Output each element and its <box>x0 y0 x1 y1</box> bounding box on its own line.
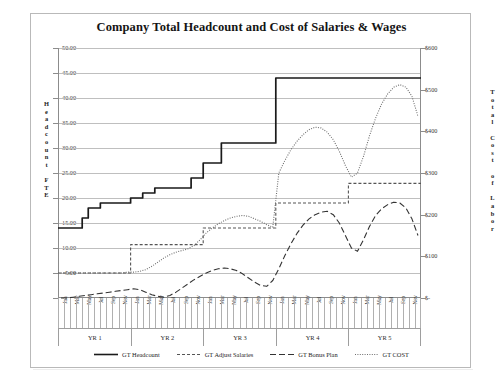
y-axis-right-tickmark <box>421 173 426 174</box>
legend-item-label: GT Headcount <box>122 351 160 358</box>
axis-title-char: n <box>41 153 52 161</box>
line-solid-icon <box>94 352 118 357</box>
series-line-gt-cost <box>61 85 418 273</box>
screenshot-root: Company Total Headcount and Cost of Sala… <box>0 0 501 388</box>
axis-title-char <box>487 164 498 172</box>
axis-title-char: o <box>487 96 498 104</box>
legend-item-label: GT COST <box>383 351 409 358</box>
y-axis-right-tick-label: $600 <box>425 44 465 51</box>
y-axis-right-tickmark <box>421 298 426 299</box>
line-dashed-icon <box>177 352 201 357</box>
legend-item[interactable]: GT Headcount <box>94 351 160 358</box>
axis-title-char: t <box>487 103 498 111</box>
line-longdash-icon <box>270 352 294 357</box>
x-axis-year-label: YR 5 <box>348 328 421 346</box>
axis-title-char: r <box>487 225 498 233</box>
axis-title-char: o <box>487 217 498 225</box>
chart-legend: GT HeadcountGT Adjust SalariesGT Bonus P… <box>31 345 472 363</box>
figure-caption <box>30 372 470 382</box>
x-axis-year-label: YR 2 <box>131 328 204 346</box>
y-axis-right-title: Total Cost of Labor <box>487 88 498 232</box>
x-axis-year-label: YR 1 <box>58 328 131 346</box>
axis-title-char: F <box>41 176 52 184</box>
chart-card: Company Total Headcount and Cost of Sala… <box>30 13 471 368</box>
axis-title-char: s <box>487 149 498 157</box>
series-layer <box>58 48 421 298</box>
axis-title-char: l <box>487 118 498 126</box>
axis-title-char: e <box>41 108 52 116</box>
x-axis-year-band: YR 1YR 2YR 3YR 4YR 5 <box>58 328 421 346</box>
y-axis-right-tickmark <box>421 90 426 91</box>
x-axis-month-cell <box>415 298 421 328</box>
y-axis-right-tickmark <box>421 48 426 49</box>
chart-title: Company Total Headcount and Cost of Sala… <box>31 20 472 35</box>
axis-title-char: c <box>41 130 52 138</box>
x-axis-year-label: YR 3 <box>203 328 276 346</box>
legend-item-label: GT Adjust Salaries <box>205 351 254 358</box>
axis-title-char: H <box>41 100 52 108</box>
y-axis-right-tickmark <box>421 215 426 216</box>
y-axis-right-tick-label: $100 <box>425 252 465 259</box>
axis-title-char <box>487 126 498 134</box>
y-axis-right-tickmark <box>421 256 426 257</box>
line-dotted-icon <box>355 352 379 357</box>
x-axis-year-label: YR 4 <box>276 328 349 346</box>
axis-title-char: t <box>41 161 52 169</box>
axis-title-char: b <box>487 210 498 218</box>
legend-item-label: GT Bonus Plan <box>298 351 337 358</box>
legend-item[interactable]: GT Bonus Plan <box>270 351 337 358</box>
series-line-gt-adjust-salaries <box>58 183 421 273</box>
y-axis-right-tickmark <box>421 131 426 132</box>
axis-title-char: C <box>487 134 498 142</box>
plot-area <box>58 48 421 298</box>
axis-title-char: f <box>487 179 498 187</box>
axis-title-char: T <box>487 88 498 96</box>
legend-item[interactable]: GT COST <box>355 351 409 358</box>
x-axis-month-band: JanMarMayJulSepNovJanMarMayJulSepNovJanM… <box>58 298 421 328</box>
series-line-gt-bonus-plan <box>61 202 418 298</box>
y-axis-right-tick-label: $300 <box>425 169 465 176</box>
axis-title-char: a <box>487 111 498 119</box>
series-line-gt-headcount <box>58 78 421 228</box>
axis-title-char: L <box>487 194 498 202</box>
axis-title-char: o <box>487 172 498 180</box>
axis-title-char: T <box>41 184 52 192</box>
y-axis-right-tick-label: $400 <box>425 127 465 134</box>
axis-title-char: a <box>487 202 498 210</box>
axis-title-char: o <box>487 141 498 149</box>
y-axis-right-tick-label: $- <box>425 294 465 301</box>
page-rule <box>33 369 473 370</box>
y-axis-right-tick-label: $200 <box>425 211 465 218</box>
y-axis-right-tick-label: $500 <box>425 86 465 93</box>
axis-title-char: t <box>487 156 498 164</box>
axis-title-char <box>487 187 498 195</box>
legend-item[interactable]: GT Adjust Salaries <box>177 351 254 358</box>
